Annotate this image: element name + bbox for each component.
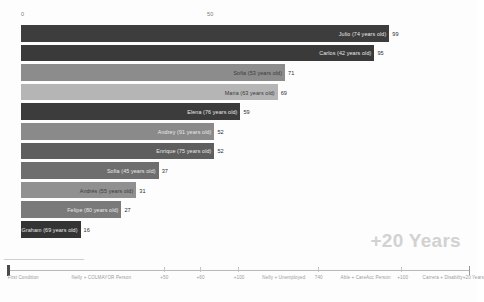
bar-value-label: 52	[217, 129, 223, 135]
bar-row[interactable]: Andrey (91 years old)52	[0, 122, 477, 142]
timeline-tick-marker	[164, 267, 165, 272]
bar-row[interactable]: Sofia (53 years old)71	[0, 63, 477, 83]
timeline-tick-marker	[401, 267, 402, 272]
bar-row[interactable]: Maria (63 years old)69	[0, 83, 477, 103]
timeline-tick-marker	[200, 267, 201, 272]
timeline-label: Able + CareAcc Person	[341, 275, 391, 280]
bar[interactable]	[21, 25, 389, 42]
bar-category-label: Graham (69 years old)	[22, 227, 78, 233]
timeline-label: Nelly + Unemployed	[262, 275, 305, 280]
bar-row[interactable]: Julio (74 years old)99	[0, 24, 477, 44]
bar-value-label: 52	[217, 148, 223, 154]
bar-value-label: 37	[162, 168, 168, 174]
bar-value-label: 16	[84, 227, 90, 233]
bar-category-label: Elena (76 years old)	[187, 109, 237, 115]
bar-value-label: 71	[288, 70, 294, 76]
chart-annotation-plus20years: +20 Years	[370, 230, 461, 252]
bar-row[interactable]: Enrique (75 years old)52	[0, 142, 477, 162]
bar-category-label: Andrey (91 years old)	[158, 129, 212, 135]
timeline-label: Carrera + Disabilty	[423, 275, 463, 280]
axis-tick-0: 0	[21, 11, 24, 17]
bar-category-label: Carlos (42 years old)	[319, 50, 371, 56]
bar-value-label: 95	[377, 50, 383, 56]
bar-value-label: 59	[243, 109, 249, 115]
chart-plot-area: Julio (74 years old)99Carlos (42 years o…	[0, 24, 477, 256]
timeline-label: 740	[315, 275, 323, 280]
timeline-label: +60	[197, 275, 205, 280]
bar-row[interactable]: Elena (76 years old)59	[0, 102, 477, 122]
chart-top-axis: 0 50	[0, 0, 477, 26]
bar-row[interactable]: Andrés (55 years old)31	[0, 181, 477, 201]
bar-category-label: Sofia (45 years old)	[107, 168, 156, 174]
bar-value-label: 31	[139, 188, 145, 194]
timeline-legend: First ConditionNelly + COLMAYOR Person+5…	[0, 256, 477, 302]
bar-value-label: 69	[281, 90, 287, 96]
bar-value-label: 99	[392, 31, 398, 37]
timeline-end-marker	[469, 266, 471, 275]
timeline-label: +100	[397, 275, 408, 280]
bar-category-label: Julio (74 years old)	[339, 31, 387, 37]
timeline-tick-marker	[318, 267, 319, 272]
bar-category-label: Andrés (55 years old)	[80, 188, 134, 194]
timeline-label: First Condition	[8, 275, 39, 280]
timeline-label: +50	[160, 275, 168, 280]
timeline-label: Nelly + COLMAYOR Person	[72, 275, 132, 280]
bar-category-label: Felipe (80 years old)	[67, 207, 118, 213]
timeline-label: +100	[234, 275, 245, 280]
axis-tick-50: 50	[207, 11, 214, 17]
bar-row[interactable]: Felipe (80 years old)27	[0, 200, 477, 220]
bar-value-label: 27	[124, 207, 130, 213]
timeline-label: +20 Years	[463, 275, 484, 280]
bar-category-label: Enrique (75 years old)	[156, 148, 211, 154]
bar-row[interactable]: Carlos (42 years old)95	[0, 44, 477, 64]
bar-category-label: Maria (63 years old)	[225, 90, 275, 96]
bar-row[interactable]: Sofia (45 years old)37	[0, 161, 477, 181]
bar-category-label: Sofia (53 years old)	[233, 70, 282, 76]
timeline-tick-marker	[238, 267, 239, 272]
